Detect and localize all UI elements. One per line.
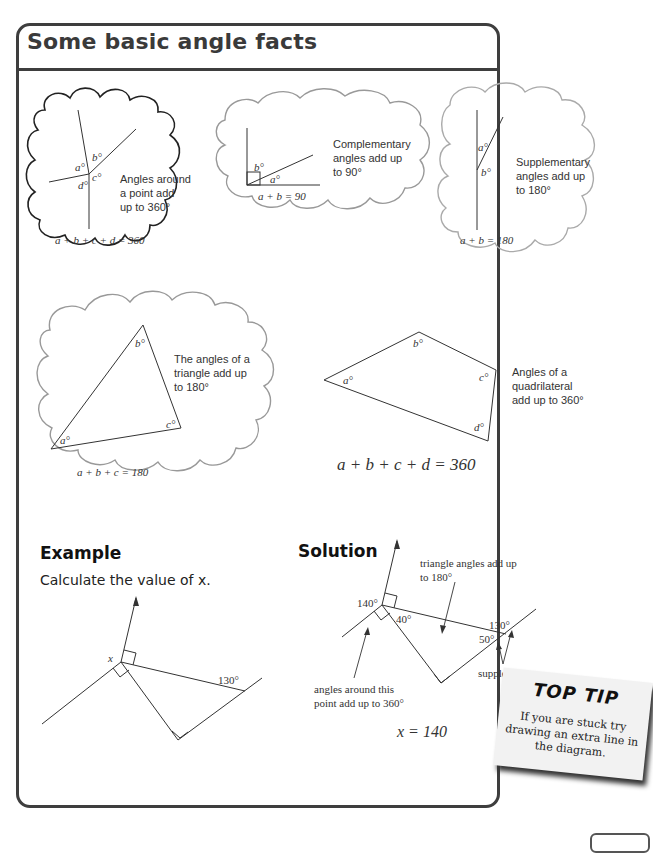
triangle-text: The angles of a triangle add up to 180° — [174, 352, 250, 394]
solution-label-140: 140° — [357, 596, 378, 610]
label-c: c° — [92, 170, 101, 184]
label-d: d° — [78, 178, 88, 192]
complementary-equation: a + b = 90 — [258, 189, 306, 203]
top-tip-body: If you are stuck try drawing an extra li… — [499, 708, 645, 765]
label-b: b° — [413, 336, 423, 350]
solution-note-triangle: triangle angles add up to 180° — [420, 556, 517, 584]
label-b: b° — [481, 165, 491, 179]
supplementary-equation: a + b = 180 — [460, 233, 513, 247]
solution-label-40: 40° — [396, 612, 411, 626]
label-a: a° — [60, 433, 70, 447]
solution-note-point: angles around this point add up to 360° — [314, 682, 404, 710]
solution-label-50: 50° — [479, 632, 494, 646]
solution-answer: x = 140 — [397, 722, 447, 742]
solution-heading: Solution — [298, 541, 378, 561]
label-b: b° — [135, 336, 145, 350]
top-tip-card: TOP TIP If you are stuck try drawing an … — [493, 667, 652, 780]
label-a: a° — [478, 140, 488, 154]
label-d: d° — [474, 420, 484, 434]
complementary-text: Complementary angles add up to 90° — [333, 137, 411, 179]
example-diagram — [42, 596, 262, 740]
cloud-around-point — [26, 88, 179, 245]
label-b: b° — [92, 150, 102, 164]
quadrilateral-text: Angles of a quadrilateral add up to 360° — [512, 365, 584, 407]
example-x-label: x — [108, 651, 113, 665]
label-a: a° — [343, 373, 353, 387]
label-c: c° — [166, 417, 175, 431]
solution-label-130: 130° — [489, 618, 510, 632]
example-heading: Example — [40, 543, 121, 563]
example-angle-label: 130° — [218, 673, 239, 687]
quadrilateral-equation: a + b + c + d = 360 — [337, 455, 475, 475]
label-b: b° — [254, 160, 264, 174]
label-c: c° — [479, 370, 488, 384]
top-tip-title: TOP TIP — [501, 675, 652, 712]
around-point-text: Angles around a point add up to 360° — [120, 172, 191, 214]
supplementary-text: Supplementary angles add up to 180° — [516, 155, 590, 197]
label-a: a° — [270, 172, 280, 186]
label-a: a° — [75, 160, 85, 174]
around-point-equation: a + b + c + d = 360 — [55, 233, 145, 247]
example-question: Calculate the value of x. — [40, 572, 211, 588]
triangle-equation: a + b + c = 180 — [77, 465, 148, 479]
page-number-box — [590, 833, 650, 853]
